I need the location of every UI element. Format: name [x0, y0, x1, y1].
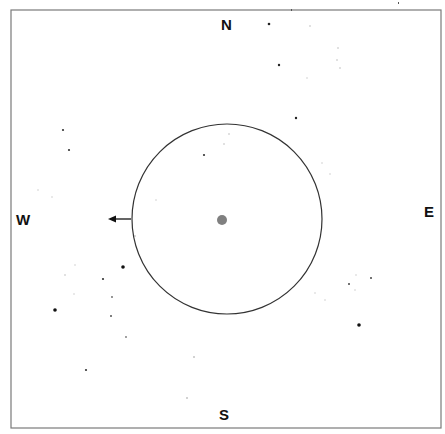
star	[348, 283, 350, 285]
target-object	[217, 215, 227, 225]
stray-mark	[398, 2, 399, 4]
star	[110, 315, 112, 317]
star	[268, 23, 271, 26]
star	[354, 289, 356, 291]
star	[121, 265, 125, 269]
star	[203, 154, 205, 156]
star	[68, 149, 70, 151]
star	[125, 336, 127, 338]
west-label: W	[16, 212, 30, 227]
star	[62, 129, 64, 131]
field-of-view-circle	[132, 124, 322, 314]
star	[186, 397, 188, 399]
star	[355, 274, 357, 276]
star	[53, 308, 57, 312]
star	[64, 274, 66, 276]
star	[339, 67, 341, 69]
star	[337, 47, 339, 49]
star	[155, 199, 157, 201]
arrow-left-icon	[108, 216, 131, 223]
star	[193, 356, 195, 358]
star	[85, 369, 87, 371]
star	[278, 64, 280, 66]
star	[223, 143, 225, 145]
star	[134, 235, 136, 237]
south-label: S	[219, 407, 229, 422]
star	[314, 292, 316, 294]
finder-chart	[0, 0, 445, 434]
star	[336, 59, 338, 61]
star	[321, 162, 323, 164]
north-label: N	[221, 17, 232, 32]
star	[37, 189, 39, 191]
star	[329, 173, 331, 175]
star	[357, 323, 361, 327]
star	[111, 296, 113, 298]
star	[74, 264, 76, 266]
star	[295, 117, 297, 119]
star	[324, 299, 326, 301]
star	[51, 196, 53, 198]
star	[73, 293, 75, 295]
stray-mark	[291, 9, 292, 11]
east-label: E	[424, 204, 434, 219]
star	[306, 77, 308, 79]
star	[102, 278, 104, 280]
star	[309, 25, 311, 27]
star	[228, 133, 230, 135]
star	[370, 277, 372, 279]
